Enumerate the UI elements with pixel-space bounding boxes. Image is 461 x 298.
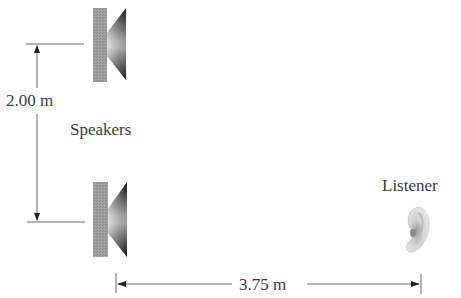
arrow-right-icon (411, 281, 420, 287)
bottom-speaker (93, 182, 127, 257)
speakers-label: Speakers (70, 121, 131, 138)
vertical-dimension-label: 2.00 m (6, 92, 53, 109)
arrow-down-icon (34, 213, 40, 221)
listener-label: Listener (382, 177, 438, 194)
speaker-box (93, 8, 107, 82)
arrow-left-icon (117, 281, 126, 287)
horizontal-dimension-label: 3.75 m (239, 276, 286, 293)
speaker-box (93, 182, 108, 257)
top-speaker (93, 8, 126, 82)
diagram-canvas (0, 0, 461, 298)
ear-icon (406, 207, 429, 252)
arrow-up-icon (34, 45, 40, 53)
